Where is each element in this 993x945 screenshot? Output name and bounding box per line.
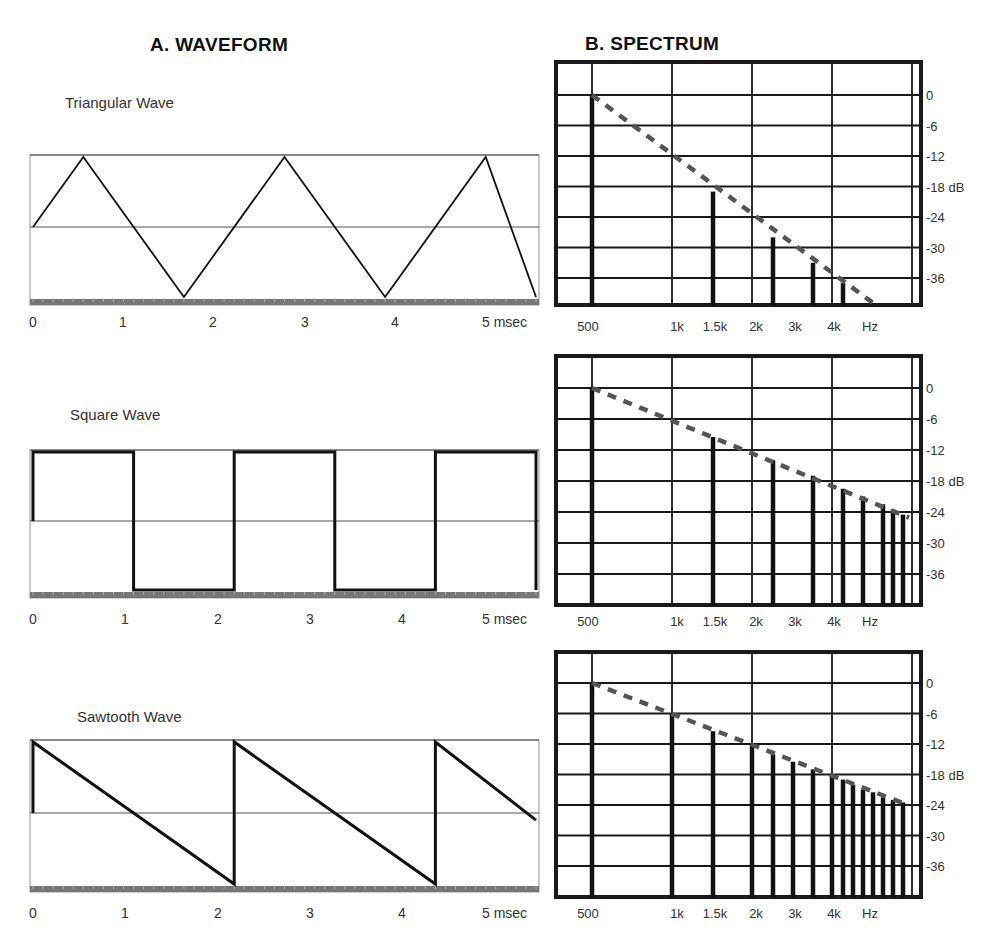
waveform-charts: 012345 msec012345 msec012345 msec xyxy=(29,155,539,921)
frequency-tick-label: 500 xyxy=(577,906,599,921)
time-tick-label: 4 xyxy=(398,905,406,921)
frequency-tick-label: 2k xyxy=(749,614,763,629)
db-tick-label: -12 xyxy=(926,737,945,752)
db-tick-label: -36 xyxy=(926,567,945,582)
time-tick-label: 4 xyxy=(398,611,406,627)
frequency-tick-label: 3k xyxy=(788,906,802,921)
time-tick-label: 5 msec xyxy=(482,905,527,921)
frequency-tick-label: Hz xyxy=(862,906,878,921)
square-wave-spectrum: 0-6-12-18 dB-24-30-365001k1.5k2k3k4kHz xyxy=(556,356,964,629)
frequency-tick-label: 1.5k xyxy=(703,614,728,629)
frequency-tick-label: 4k xyxy=(827,614,841,629)
sawtooth-wave-spectrum: 0-6-12-18 dB-24-30-365001k1.5k2k3k4kHz xyxy=(556,652,964,921)
frequency-tick-label: 4k xyxy=(827,319,841,334)
time-tick-label: 1 xyxy=(121,611,129,627)
square-wave-chart: 012345 msec xyxy=(29,450,539,627)
time-tick-label: 3 xyxy=(306,611,314,627)
frequency-tick-label: 2k xyxy=(749,906,763,921)
db-tick-label: -12 xyxy=(926,443,945,458)
db-tick-label: -24 xyxy=(926,210,945,225)
frequency-tick-label: 1k xyxy=(670,319,684,334)
db-tick-label: -6 xyxy=(926,119,938,134)
frequency-tick-label: 1k xyxy=(670,614,684,629)
time-tick-label: 1 xyxy=(121,905,129,921)
time-tick-label: 4 xyxy=(391,314,399,330)
db-tick-label: -36 xyxy=(926,859,945,874)
db-tick-label: 0 xyxy=(926,88,933,103)
frequency-tick-label: Hz xyxy=(862,614,878,629)
db-tick-label: -18 dB xyxy=(926,180,964,195)
frequency-tick-label: 1.5k xyxy=(703,319,728,334)
db-tick-label: -12 xyxy=(926,149,945,164)
frequency-tick-label: 2k xyxy=(749,319,763,334)
spectrum-charts: 0-6-12-18 dB-24-30-365001k1.5k2k3k4kHz0-… xyxy=(556,62,964,921)
db-tick-label: -6 xyxy=(926,412,938,427)
time-tick-label: 3 xyxy=(306,905,314,921)
db-tick-label: -24 xyxy=(926,798,945,813)
time-tick-label: 0 xyxy=(29,611,37,627)
frequency-tick-label: 500 xyxy=(577,614,599,629)
db-tick-label: -30 xyxy=(926,536,945,551)
time-tick-label: 2 xyxy=(214,611,222,627)
frequency-tick-label: 1.5k xyxy=(703,906,728,921)
frequency-tick-label: 3k xyxy=(788,319,802,334)
triangular-wave-chart: 012345 msec xyxy=(29,155,539,330)
db-tick-label: -30 xyxy=(926,829,945,844)
time-tick-label: 2 xyxy=(214,905,222,921)
figure-canvas: 012345 msec012345 msec012345 msec 0-6-12… xyxy=(0,0,993,945)
time-tick-label: 0 xyxy=(29,905,37,921)
db-tick-label: -36 xyxy=(926,271,945,286)
db-tick-label: -18 dB xyxy=(926,768,964,783)
frequency-tick-label: 1k xyxy=(670,906,684,921)
frequency-tick-label: Hz xyxy=(862,319,878,334)
time-tick-label: 3 xyxy=(301,314,309,330)
frequency-tick-label: 3k xyxy=(788,614,802,629)
frequency-tick-label: 500 xyxy=(577,319,599,334)
frequency-tick-label: 4k xyxy=(827,906,841,921)
time-tick-label: 5 msec xyxy=(482,314,527,330)
db-tick-label: -24 xyxy=(926,505,945,520)
db-tick-label: -30 xyxy=(926,241,945,256)
time-tick-label: 1 xyxy=(119,314,127,330)
db-tick-label: 0 xyxy=(926,676,933,691)
db-tick-label: -6 xyxy=(926,707,938,722)
db-tick-label: -18 dB xyxy=(926,474,964,489)
time-tick-label: 2 xyxy=(209,314,217,330)
triangular-wave-spectrum: 0-6-12-18 dB-24-30-365001k1.5k2k3k4kHz xyxy=(556,62,964,334)
time-tick-label: 5 msec xyxy=(482,611,527,627)
time-tick-label: 0 xyxy=(29,314,37,330)
db-tick-label: 0 xyxy=(926,381,933,396)
sawtooth-wave-chart: 012345 msec xyxy=(29,740,539,921)
